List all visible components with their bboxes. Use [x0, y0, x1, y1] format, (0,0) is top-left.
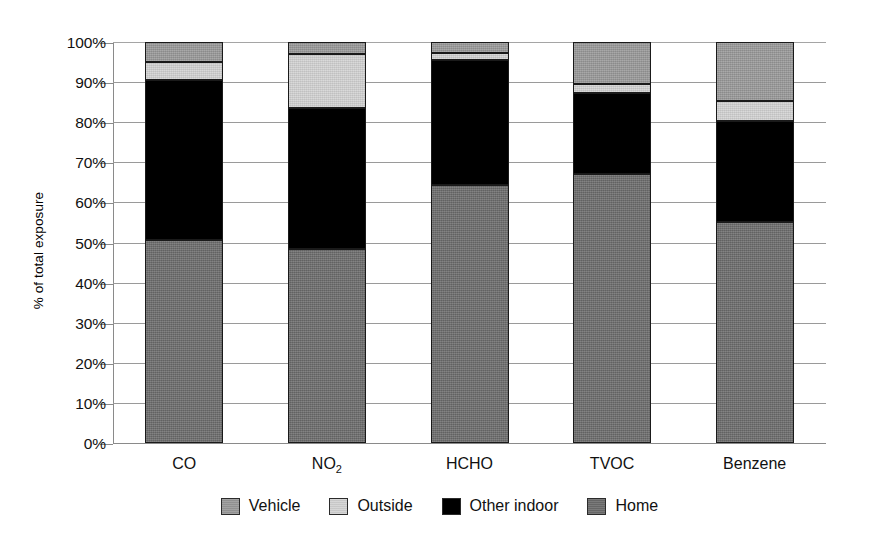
bar-group[interactable] — [288, 42, 366, 443]
y-axis-tick-label: 20% — [75, 355, 106, 373]
bar-segment-home[interactable] — [431, 185, 509, 443]
bar-group[interactable] — [145, 42, 223, 443]
bar-group[interactable] — [716, 42, 794, 443]
bar-segment-outside[interactable] — [716, 101, 794, 122]
bar-segment-outside[interactable] — [573, 84, 651, 93]
legend-label: Vehicle — [249, 497, 301, 515]
bar-segment-outside[interactable] — [288, 54, 366, 108]
chart-legend: VehicleOutsideOther indoorHome — [0, 497, 879, 515]
bar-segment-otherindoor[interactable] — [431, 60, 509, 185]
bar-segment-otherindoor[interactable] — [145, 80, 223, 240]
x-axis-label: Benzene — [675, 455, 835, 473]
y-axis-tick-label: 60% — [75, 194, 106, 212]
legend-swatch-vehicle — [221, 498, 240, 515]
legend-swatch-outside — [329, 498, 348, 515]
y-axis-tick-label: 30% — [75, 315, 106, 333]
bar-segment-otherindoor[interactable] — [716, 121, 794, 221]
bars-layer — [113, 42, 826, 443]
bar-segment-otherindoor[interactable] — [288, 108, 366, 248]
legend-item[interactable]: Home — [587, 497, 658, 515]
bar-segment-home[interactable] — [288, 249, 366, 443]
y-axis-tick-label: 70% — [75, 154, 106, 172]
y-axis-tick-label: 10% — [75, 395, 106, 413]
y-axis-tick-label: 50% — [75, 235, 106, 253]
bar-segment-home[interactable] — [145, 240, 223, 443]
gridline: 0% — [113, 443, 826, 444]
bar-stack — [431, 42, 509, 443]
y-axis-tick-label: 100% — [67, 34, 106, 52]
legend-item[interactable]: Other indoor — [442, 497, 559, 515]
legend-label: Other indoor — [470, 497, 559, 515]
bar-segment-outside[interactable] — [145, 62, 223, 80]
y-axis-tick-label: 0% — [84, 435, 106, 453]
legend-item[interactable]: Outside — [329, 497, 412, 515]
x-axis-label: HCHO — [390, 455, 550, 473]
bar-stack — [288, 42, 366, 443]
stacked-bar-chart: % of total exposure 0%10%20%30%40%50%60%… — [0, 0, 879, 554]
y-axis-tick-label: 40% — [75, 275, 106, 293]
legend-swatch-home — [587, 498, 606, 515]
bar-segment-outside[interactable] — [431, 53, 509, 60]
bar-segment-home[interactable] — [716, 222, 794, 443]
x-axis-label: NO2 — [247, 455, 407, 473]
bar-group[interactable] — [431, 42, 509, 443]
bar-stack — [716, 42, 794, 443]
plot-area: 0%10%20%30%40%50%60%70%80%90%100% — [113, 42, 826, 443]
bar-segment-vehicle[interactable] — [145, 42, 223, 62]
y-axis-tick-label: 90% — [75, 74, 106, 92]
legend-swatch-otherindoor — [442, 498, 461, 515]
y-axis-tick-label: 80% — [75, 114, 106, 132]
bar-stack — [145, 42, 223, 443]
bar-segment-vehicle[interactable] — [573, 42, 651, 84]
bar-segment-home[interactable] — [573, 174, 651, 443]
bar-segment-vehicle[interactable] — [431, 42, 509, 53]
legend-item[interactable]: Vehicle — [221, 497, 301, 515]
y-axis-title: % of total exposure — [31, 141, 46, 361]
legend-label: Home — [615, 497, 658, 515]
bar-group[interactable] — [573, 42, 651, 443]
x-axis-label: CO — [104, 455, 264, 473]
bar-segment-vehicle[interactable] — [288, 42, 366, 54]
bar-stack — [573, 42, 651, 443]
bar-segment-vehicle[interactable] — [716, 42, 794, 101]
bar-segment-otherindoor[interactable] — [573, 93, 651, 174]
legend-label: Outside — [357, 497, 412, 515]
x-axis-label: TVOC — [532, 455, 692, 473]
